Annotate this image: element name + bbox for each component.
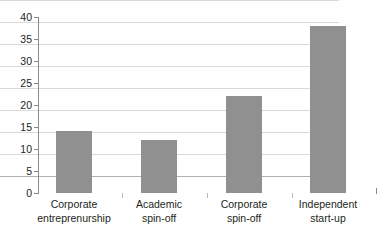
bar-chart: 40 35 30 25 20 15 10 5 0 Corporate entre…	[0, 0, 389, 236]
y-axis-label-40: 40	[8, 12, 32, 23]
y-axis-label-25: 25	[8, 78, 32, 89]
y-axis-label-15: 15	[8, 122, 32, 133]
x-axis-label-independent-start-up: Independent start-up	[274, 197, 382, 225]
bar-academic-spin-off	[141, 140, 177, 193]
y-axis-label-30: 30	[8, 56, 32, 67]
y-axis-label-10: 10	[8, 144, 32, 155]
x-axis-label-line2: start-up	[274, 211, 382, 225]
bar-independent-start-up	[310, 26, 346, 193]
gridline-40	[0, 0, 339, 1]
y-axis-label-5: 5	[8, 166, 32, 177]
y-tick-0	[34, 193, 38, 194]
y-axis-label-20: 20	[8, 100, 32, 111]
bar-corporate-entreprenurship	[56, 131, 92, 193]
y-axis-label-35: 35	[8, 34, 32, 45]
x-axis-label-line1: Independent	[299, 198, 357, 210]
x-axis-label-line1: Academic	[136, 198, 182, 210]
x-axis-label-line1: Corporate	[221, 198, 268, 210]
bar-corporate-spin-off	[226, 96, 262, 193]
x-axis-label-line1: Corporate	[51, 198, 98, 210]
plot-area	[38, 17, 377, 193]
